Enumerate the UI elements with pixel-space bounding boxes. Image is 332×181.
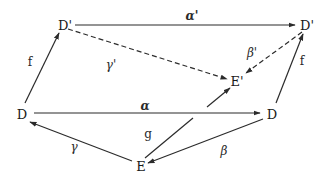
edge-f-right <box>276 34 303 103</box>
node-e-prime: E' <box>230 75 243 88</box>
label-f-left: f <box>28 56 32 68</box>
label-f-right: f <box>300 55 304 67</box>
edge-gamma <box>30 122 132 161</box>
node-d-right: D <box>267 108 277 121</box>
diagram-edges <box>0 0 332 181</box>
node-e: E <box>136 160 146 173</box>
edge-gamma-prime <box>68 29 227 79</box>
label-gamma: γ <box>70 141 77 153</box>
node-d-prime-right: D' <box>300 19 314 32</box>
edge-g-upper <box>207 88 230 107</box>
label-alpha-prime: α' <box>186 10 199 22</box>
label-beta: β <box>221 145 228 157</box>
commutative-diagram: D' D' E' D D E α' γ' β' f f α g γ β <box>0 0 332 181</box>
edge-g-lower <box>145 118 193 158</box>
label-gamma-prime: γ' <box>106 59 116 71</box>
label-g: g <box>144 128 152 140</box>
label-beta-prime: β' <box>247 47 257 59</box>
label-alpha: α <box>140 100 149 112</box>
node-d-prime-left: D' <box>58 19 72 32</box>
node-d-left: D <box>17 108 27 121</box>
